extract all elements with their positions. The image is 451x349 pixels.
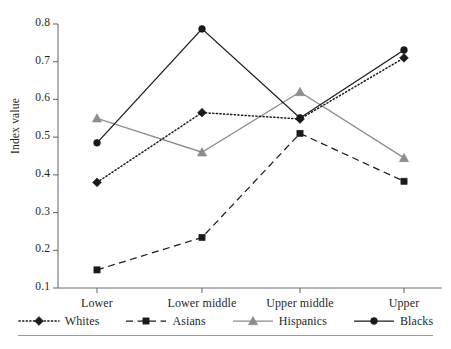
footer-divider	[18, 335, 433, 336]
legend-label: Hispanics	[279, 314, 327, 329]
legend-marker	[34, 317, 43, 326]
data-point-asians-2	[297, 130, 303, 136]
legend-item-blacks[interactable]: Blacks	[353, 314, 433, 329]
y-axis-tick-label: 0.3	[18, 205, 50, 217]
legend-item-whites[interactable]: Whites	[18, 314, 100, 329]
y-axis-tick-label: 0.4	[18, 167, 50, 179]
y-axis-tick-label: 0.7	[18, 54, 50, 66]
data-point-blacks-0	[94, 139, 101, 146]
y-axis-tick-label: 0.8	[18, 16, 50, 28]
data-point-hispanics-3	[399, 153, 408, 161]
series-line-hispanics	[97, 92, 404, 158]
legend-item-hispanics[interactable]: Hispanics	[232, 314, 327, 329]
legend-marker-diamond-icon	[18, 315, 60, 327]
legend-marker	[371, 318, 378, 325]
chart-legend: WhitesAsiansHispanicsBlacks	[0, 310, 451, 332]
x-axis-tick-label: Upper	[334, 296, 451, 311]
data-point-whites-3	[400, 54, 409, 63]
y-axis-tick-label: 0.5	[18, 129, 50, 141]
legend-label: Blacks	[400, 314, 433, 329]
y-axis-tick-label: 0.6	[18, 91, 50, 103]
legend-marker-circle-icon	[353, 315, 395, 327]
series-line-asians	[97, 133, 404, 270]
legend-marker-square-icon	[125, 315, 167, 327]
legend-marker-triangle-icon	[232, 315, 274, 327]
y-axis-tick-label: 0.2	[18, 242, 50, 254]
series-line-blacks	[97, 29, 404, 143]
data-point-hispanics-0	[92, 114, 101, 122]
data-point-whites-0	[93, 178, 102, 187]
data-point-blacks-2	[297, 115, 304, 122]
legend-label: Asians	[172, 314, 205, 329]
series-line-whites	[97, 58, 404, 182]
legend-label: Whites	[65, 314, 100, 329]
data-point-asians-1	[199, 234, 205, 240]
legend-marker	[143, 318, 149, 324]
data-point-blacks-1	[199, 26, 206, 33]
data-point-asians-3	[401, 178, 407, 184]
data-point-whites-1	[198, 108, 207, 117]
legend-item-asians[interactable]: Asians	[125, 314, 205, 329]
chart-figure: Index value WhitesAsiansHispanicsBlacks …	[0, 0, 451, 349]
y-axis-tick-label: 0.1	[18, 280, 50, 292]
data-point-asians-0	[94, 267, 100, 273]
data-point-blacks-3	[401, 47, 408, 54]
data-point-hispanics-2	[295, 87, 304, 95]
